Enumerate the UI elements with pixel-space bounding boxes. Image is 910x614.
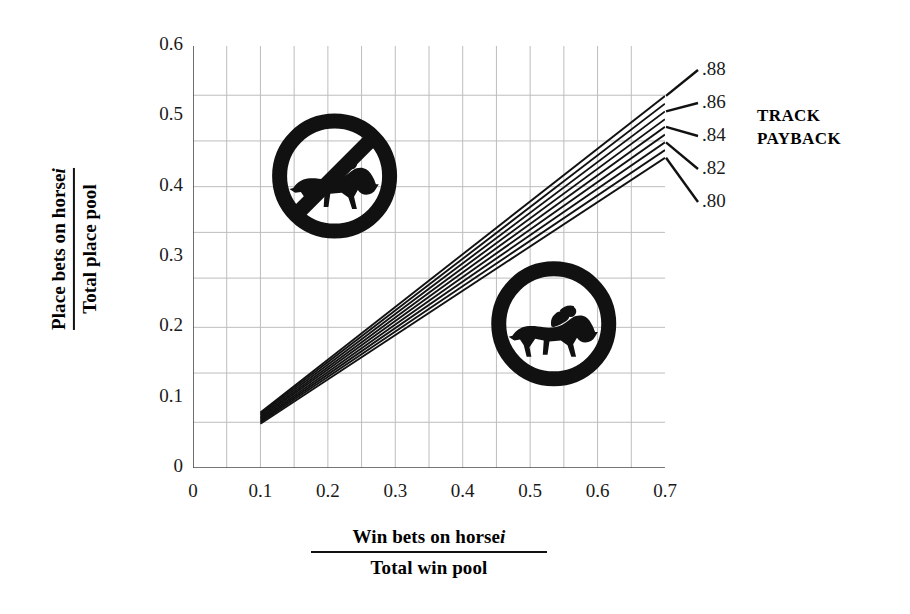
x-axis-fraction-rule [311,551,547,553]
y-axis-numerator-italic: i [48,168,69,173]
y-axis-label: Place bets on horsei Total place pool [14,34,134,464]
y-tick-label: 0.6 [135,33,183,55]
x-tick-label: 0.1 [230,480,290,502]
horse-symbol [499,269,609,379]
x-tick-label: 0.6 [568,480,628,502]
x-axis-label: Win bets on horsei Total win pool [193,524,665,580]
legend-title-line1: TRACK [757,105,841,128]
y-tick-label: 0.2 [135,314,183,336]
y-axis-numerator-text: Place bets on horse [48,173,69,330]
x-tick-label: 0.7 [635,480,695,502]
y-tick-label: 0.1 [135,385,183,407]
x-tick-label: 0 [163,480,223,502]
x-tick-label: 0.4 [433,480,493,502]
x-axis-numerator-text: Win bets on horse [353,526,501,547]
y-tick-label: 0 [135,455,183,477]
y-tick-label: 0.4 [135,174,183,196]
legend-title-line2: PAYBACK [757,128,841,151]
y-axis-label-numerator: Place bets on horsei [46,168,71,330]
gridlines [193,46,665,468]
x-tick-label: 0.3 [365,480,425,502]
leader-line-86 [666,103,698,111]
x-tick-label: 0.5 [500,480,560,502]
x-axis-label-numerator: Win bets on horsei [353,524,506,549]
plot-svg [193,46,665,468]
y-tick-label: 0.3 [135,244,183,266]
chart-figure: Place bets on horsei Total place pool Wi… [0,0,910,614]
legend-value-80: .80 [702,190,726,212]
legend-value-86: .86 [702,91,726,113]
y-tick-label: 0.5 [135,103,183,125]
plot-area [193,46,665,468]
leader-line-88 [666,70,698,96]
x-axis-numerator-italic: i [500,526,505,547]
x-tick-label: 0.2 [298,480,358,502]
leader-line-84 [666,127,698,136]
y-axis-label-denominator: Total place pool [77,184,102,314]
legend-title: TRACK PAYBACK [757,105,841,151]
y-axis-fraction-rule [73,168,75,330]
legend-value-88: .88 [702,58,726,80]
x-axis-label-denominator: Total win pool [371,555,488,580]
no-horse-symbol [280,121,390,231]
legend-value-82: .82 [702,157,726,179]
legend-value-84: .84 [702,124,726,146]
